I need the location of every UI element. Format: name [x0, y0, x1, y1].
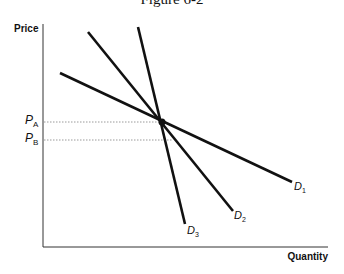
- price-label-pb: PB: [25, 131, 38, 147]
- demand-curve-d1: [60, 73, 292, 182]
- curve-subscript: 2: [242, 216, 246, 223]
- curve-label-d2: D2: [234, 209, 246, 223]
- x-axis-label: Quantity: [287, 251, 328, 262]
- curve-letter: D: [294, 180, 302, 192]
- curve-subscript: 1: [302, 187, 306, 194]
- curve-label-d1: D1: [294, 180, 306, 194]
- curve-subscript: 3: [195, 231, 199, 238]
- y-axis-label: Price: [14, 23, 38, 34]
- price-letter: P: [25, 113, 33, 127]
- curve-letter: D: [187, 224, 195, 236]
- curve-label-d3: D3: [187, 224, 199, 238]
- price-subscript: A: [33, 120, 38, 129]
- demand-diagram: [0, 0, 344, 274]
- price-label-pa: PA: [25, 113, 38, 129]
- intersection-point: [159, 119, 166, 126]
- curve-letter: D: [234, 209, 242, 221]
- price-letter: P: [25, 131, 33, 145]
- demand-curve-d3: [138, 27, 185, 224]
- price-subscript: B: [33, 138, 38, 147]
